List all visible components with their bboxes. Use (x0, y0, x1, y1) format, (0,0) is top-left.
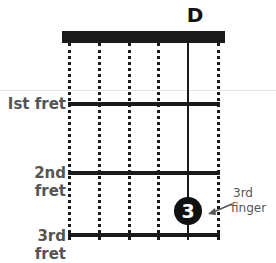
finger-position-dot: 3 (174, 197, 202, 225)
background-rule (0, 90, 276, 91)
fret-label-3: 3rd fret (2, 227, 66, 263)
annotation-line-1: 3rd (233, 186, 253, 201)
string-3 (128, 43, 131, 240)
annotation-line-2: finger (231, 201, 266, 216)
string-4 (157, 43, 160, 240)
fret-line-2 (68, 171, 220, 175)
fret-line-1 (68, 102, 220, 106)
fret-label-2: 2nd fret (2, 164, 66, 200)
fret-label-1: Ist fret (2, 95, 66, 113)
string-1 (68, 43, 71, 240)
string-2 (98, 43, 101, 240)
chord-name: D (180, 3, 210, 27)
nut-bar (62, 31, 225, 43)
fret-line-3 (68, 233, 220, 237)
